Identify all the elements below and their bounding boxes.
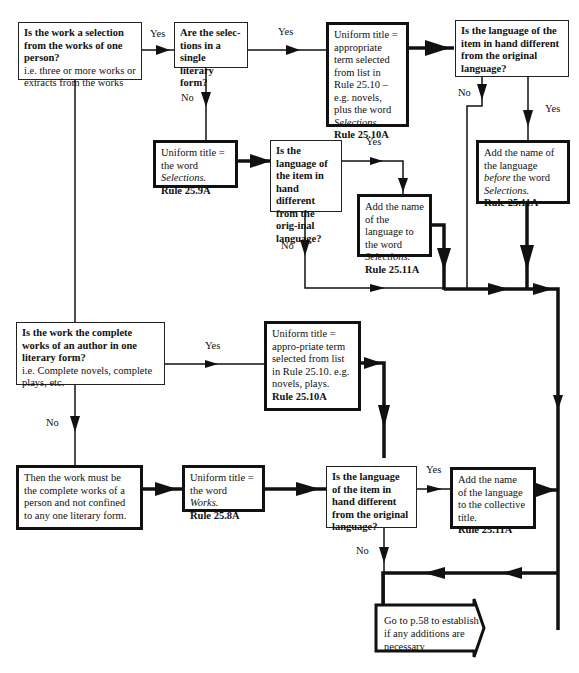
result-word-selections: Uniform title = the word Selections. Rul… [153, 140, 238, 188]
edge-label-yes: Yes [366, 136, 381, 147]
edge-label-no: No [458, 87, 471, 98]
goto-line-2: if any additions are necessary [384, 627, 479, 653]
edge-label-no: No [281, 240, 294, 251]
result-language-before-selections: Add the name of the language before the … [476, 140, 570, 204]
result-italic: before [484, 172, 510, 183]
result-italic: Selections. [334, 117, 379, 128]
question-single-literary-form: Are the selec-tions in a single literary… [174, 22, 248, 68]
question-text: Are the selec-tions in a single literary… [180, 27, 242, 90]
question-note: i.e. three or more works or extracts fro… [24, 65, 136, 89]
result-text: Add the name of the language to the coll… [458, 474, 525, 523]
edge-label-yes: Yes [150, 28, 165, 39]
result-complete-works-person: Then the work must be the complete works… [16, 465, 143, 530]
result-text: Uniform title = appro-priate term select… [272, 328, 349, 389]
result-text: Uniform title = appropriate term selecte… [334, 29, 398, 115]
edge-label-no: No [181, 92, 194, 103]
result-italic: Selections. [161, 172, 206, 183]
question-language-different-bottom: Is the language of the item in hand diff… [326, 466, 417, 528]
question-selection-from-one-person: Is the work a selection from the works o… [18, 22, 142, 80]
result-word-works: Uniform title = the word Works. Rule 25.… [182, 465, 265, 512]
result-italic: Selections. [365, 251, 410, 262]
edge-label-no: No [356, 545, 369, 556]
edge-label-yes: Yes [426, 464, 441, 475]
question-text: Is the language of the item in hand diff… [332, 471, 411, 534]
rule-reference: Rule 25.9A [161, 185, 230, 198]
rule-reference: Rule 25.11A [365, 264, 424, 277]
result-text: the word [513, 172, 550, 183]
rule-reference: Rule 25.11A [484, 197, 562, 210]
goto-line-1: Go to p.58 to establish [384, 614, 479, 627]
result-italic: Works. [190, 497, 219, 508]
rule-reference: Rule 25.8A [190, 510, 257, 523]
result-text: Add the name of the language to the word [365, 201, 424, 250]
question-text: Is the work a selection from the works o… [24, 27, 136, 65]
result-language-to-selections: Add the name of the language to the word… [357, 194, 432, 257]
question-text: Is the language of the item in hand diff… [276, 145, 336, 245]
goto-next-step: Go to p.58 to establish if any additions… [384, 614, 479, 653]
question-text: Is the work the complete works of an aut… [22, 327, 159, 365]
rule-reference: Rule 25.11A [458, 524, 528, 537]
rule-reference: Rule 25.10A [272, 391, 353, 404]
edge-label-yes: Yes [278, 26, 293, 37]
question-language-different-top: Is the language of the item in hand diff… [455, 20, 569, 77]
result-text: Uniform title = the word [161, 147, 225, 171]
question-note: i.e. Complete novels, complete plays, et… [22, 365, 152, 389]
edge-label-yes: Yes [545, 103, 560, 114]
edge-label-yes: Yes [205, 340, 220, 351]
result-language-collective-title: Add the name of the language to the coll… [450, 467, 536, 529]
result-text: Uniform title = the word [190, 472, 254, 496]
question-complete-works-one-form: Is the work the complete works of an aut… [16, 322, 165, 385]
result-text: Then the work must be the complete works… [24, 472, 126, 521]
question-text: Is the language of the item in hand diff… [461, 25, 563, 75]
edge-label-no: No [46, 417, 59, 428]
result-text: Add the name of the language [484, 147, 554, 171]
question-language-different-middle: Is the language of the item in hand diff… [270, 140, 342, 212]
result-term-complete-works: Uniform title = appro-priate term select… [264, 321, 361, 411]
result-italic: Selections. [484, 185, 529, 196]
result-term-plus-selections: Uniform title = appropriate term selecte… [326, 22, 409, 127]
